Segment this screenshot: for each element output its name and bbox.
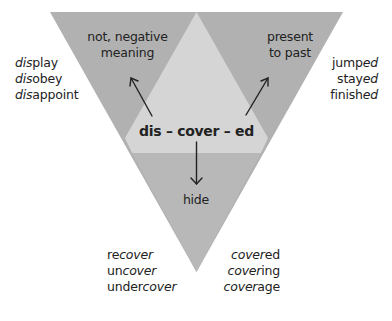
suffix-meaning-label: present to past xyxy=(250,29,330,61)
prefix-meaning-line2: meaning xyxy=(70,45,185,61)
root-with-prefix-examples: recover uncover undercover xyxy=(107,247,176,295)
example-word: disobey xyxy=(15,71,78,87)
suffix-examples: jumped stayed finished xyxy=(330,55,378,103)
root-meaning-label: hide xyxy=(166,192,226,208)
example-word: coverage xyxy=(224,279,280,295)
example-word: jumped xyxy=(330,55,378,71)
suffix-meaning-line2: to past xyxy=(250,45,330,61)
prefix-meaning-line1: not, negative xyxy=(70,29,185,45)
prefix-meaning-label: not, negative meaning xyxy=(70,29,185,61)
example-word: stayed xyxy=(330,71,378,87)
prefix-examples: display disobey disappoint xyxy=(15,55,78,103)
example-word: undercover xyxy=(107,279,176,295)
example-word: display xyxy=(15,55,78,71)
center-word: dis – cover – ed xyxy=(120,123,273,139)
suffix-meaning-line1: present xyxy=(250,29,330,45)
example-word: covered xyxy=(224,247,280,263)
example-word: uncover xyxy=(107,263,176,279)
example-word: disappoint xyxy=(15,87,78,103)
example-word: covering xyxy=(224,263,280,279)
example-word: recover xyxy=(107,247,176,263)
example-word: finished xyxy=(330,87,378,103)
morpheme-triangle-diagram xyxy=(0,0,392,321)
root-with-suffix-examples: covered covering coverage xyxy=(224,247,280,295)
root-meaning-text: hide xyxy=(166,192,226,208)
